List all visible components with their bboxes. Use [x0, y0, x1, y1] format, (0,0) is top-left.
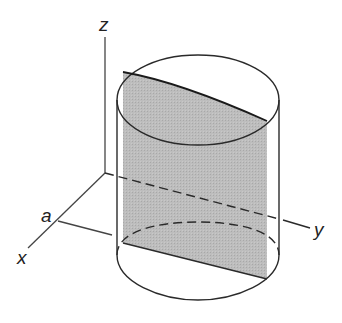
- z-axis-label: z: [98, 14, 109, 35]
- x-axis-label: x: [16, 247, 28, 268]
- plane-trace-line: [58, 221, 112, 235]
- cylinder-plane-diagram: z y x a: [0, 0, 342, 323]
- x-axis: [28, 173, 105, 248]
- y-axis: [283, 220, 310, 228]
- a-tick-label: a: [41, 205, 52, 226]
- y-axis-label: y: [312, 219, 325, 240]
